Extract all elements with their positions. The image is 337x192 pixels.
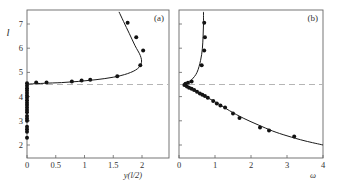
data-point — [25, 81, 29, 85]
x-tick-label: 1 — [82, 160, 86, 170]
theory-curve — [184, 12, 323, 145]
y-tick-label: 6 — [19, 43, 23, 53]
data-point — [45, 81, 49, 85]
x-axis-label: ω — [310, 170, 316, 180]
x-tick-label: 1 — [213, 160, 217, 170]
panel-a: 00.511.52234567ly(l/2)(a) — [6, 10, 169, 180]
data-point — [80, 78, 84, 82]
data-point — [202, 21, 206, 25]
data-point — [134, 35, 138, 39]
y-tick-label: 3 — [19, 116, 23, 126]
y-tick-label: 2 — [19, 140, 23, 150]
x-tick-label: 0 — [25, 160, 29, 170]
x-axis-label: y(l/2) — [123, 170, 143, 180]
panel-b: 01234ω(b) — [177, 10, 326, 180]
x-tick-label: 0 — [177, 160, 181, 170]
data-point — [126, 21, 130, 25]
y-tick-label: 4 — [19, 92, 24, 102]
panel-label: (a) — [154, 13, 164, 23]
x-tick-label: 0.5 — [50, 160, 61, 170]
figure: 00.511.52234567ly(l/2)(a) 01234ω(b) — [0, 0, 337, 192]
theory-curve — [27, 12, 142, 85]
x-tick-label: 1.5 — [108, 160, 119, 170]
y-tick-label: 5 — [19, 67, 23, 77]
x-tick-label: 2 — [249, 160, 253, 170]
data-point — [25, 125, 29, 129]
x-tick-label: 2 — [140, 160, 144, 170]
x-tick-label: 3 — [285, 160, 289, 170]
data-point — [25, 114, 29, 118]
y-tick-label: 7 — [19, 19, 23, 29]
y-axis-label: l — [6, 26, 9, 38]
data-point — [141, 49, 145, 53]
panel-label: (b) — [308, 13, 319, 23]
data-point — [202, 49, 206, 53]
data-point — [25, 136, 29, 140]
x-tick-label: 4 — [321, 160, 326, 170]
